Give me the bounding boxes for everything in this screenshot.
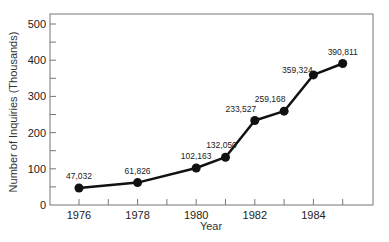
- data-point: [280, 107, 289, 116]
- data-label: 61,826: [125, 166, 151, 176]
- data-point: [338, 59, 347, 68]
- data-series: 47,03261,826102,163132,050233,527259,168…: [66, 47, 358, 193]
- y-tick-label: 0: [40, 199, 46, 211]
- line-chart: 0100200300400500 19761978198019821984 47…: [0, 0, 389, 242]
- data-label: 47,032: [66, 171, 92, 181]
- y-tick-label: 400: [28, 54, 46, 66]
- y-tick-label: 500: [28, 18, 46, 30]
- x-axis: 19761978198019821984: [67, 199, 343, 221]
- data-point: [192, 164, 201, 173]
- x-tick-label: 1982: [243, 209, 267, 221]
- data-label: 359,324: [282, 65, 313, 75]
- x-tick-label: 1976: [67, 209, 91, 221]
- data-label: 390,811: [328, 47, 358, 57]
- x-tick-label: 1978: [125, 209, 149, 221]
- data-label: 132,050: [206, 140, 237, 150]
- y-axis-title: Number of Inquiries (Thousands): [7, 32, 19, 193]
- data-point: [75, 183, 84, 192]
- data-label: 102,163: [181, 151, 212, 161]
- x-tick-label: 1984: [301, 209, 325, 221]
- data-label: 259,168: [255, 94, 286, 104]
- y-tick-label: 300: [28, 90, 46, 102]
- data-point: [250, 116, 259, 125]
- data-point: [221, 153, 230, 162]
- plot-frame: [50, 14, 373, 205]
- y-tick-label: 200: [28, 127, 46, 139]
- data-point: [133, 178, 142, 187]
- y-tick-label: 100: [28, 163, 46, 175]
- y-axis: 0100200300400500: [28, 18, 56, 211]
- data-label: 233,527: [225, 104, 256, 114]
- series-line: [79, 64, 343, 188]
- x-axis-title: Year: [200, 220, 223, 232]
